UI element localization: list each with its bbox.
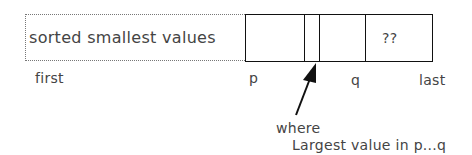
arrow-icon: [0, 0, 472, 155]
largest-value-label: Largest value in p...q: [292, 137, 446, 153]
where-label: where: [276, 120, 321, 136]
